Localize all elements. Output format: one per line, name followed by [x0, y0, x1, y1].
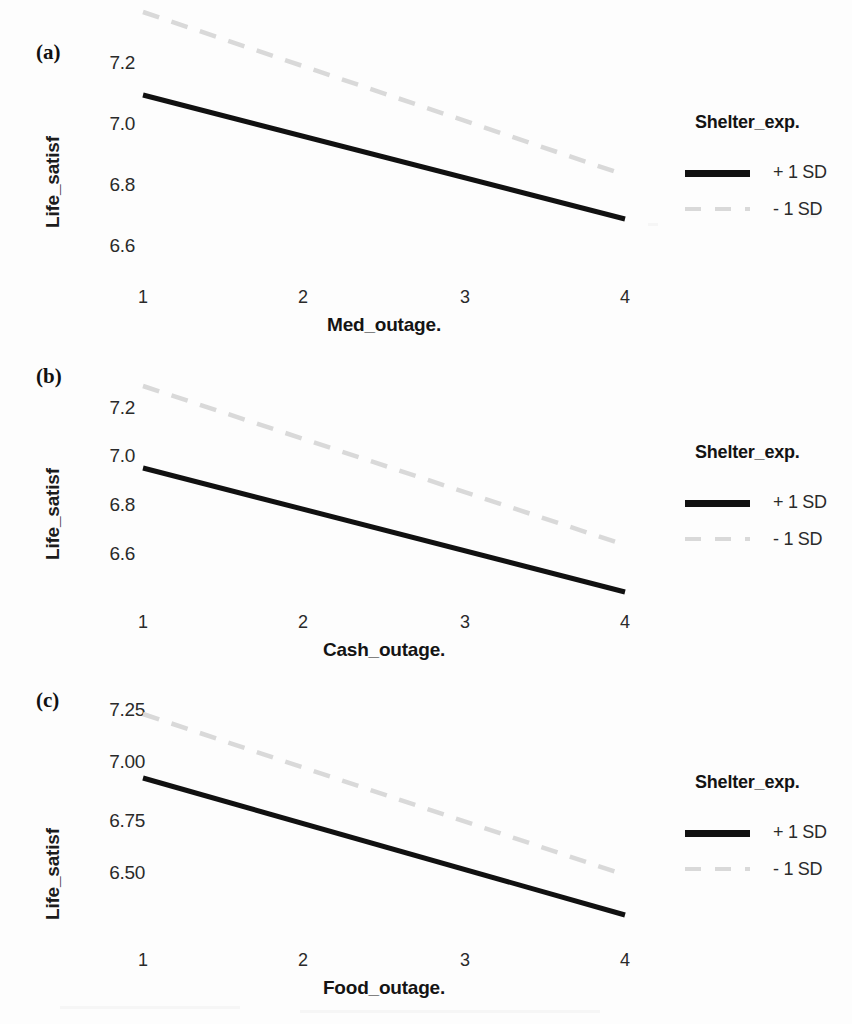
- panel-a: (a) Life_satisf 7.2 7.0 6.8 6.6 1 2 3 4 …: [0, 0, 852, 340]
- panel-c-line-plus1sd: [143, 778, 625, 915]
- x-tick-label: 4: [610, 287, 640, 308]
- y-tick-label: 6.8: [109, 494, 135, 516]
- y-tick-label: 6.75: [109, 810, 145, 832]
- figure-canvas: (a) Life_satisf 7.2 7.0 6.8 6.6 1 2 3 4 …: [0, 0, 852, 1024]
- legend-label: + 1 SD: [773, 822, 827, 843]
- panel-b-series-lines: [143, 340, 625, 630]
- y-tick-label: 7.0: [109, 445, 135, 467]
- x-tick-label: 3: [450, 287, 480, 308]
- panel-b: (b) Life_satisf 7.2 7.0 6.8 6.6 1 2 3 4 …: [0, 340, 852, 670]
- y-tick-label: 6.8: [109, 174, 135, 196]
- scan-artifact: [60, 1006, 240, 1009]
- panel-a-y-axis-label: Life_satisf: [42, 136, 64, 228]
- x-tick-label: 2: [288, 612, 318, 633]
- legend-swatch-dashed: [685, 867, 750, 871]
- panel-a-line-minus1sd: [143, 12, 625, 175]
- panel-b-line-plus1sd: [143, 468, 625, 592]
- y-tick-label: 7.2: [109, 397, 135, 419]
- legend-label: + 1 SD: [773, 492, 827, 513]
- panel-b-legend: Shelter_exp. + 1 SD - 1 SD: [640, 430, 852, 570]
- legend-swatch-solid: [685, 170, 750, 177]
- legend-row-minus1sd: - 1 SD: [685, 199, 845, 221]
- panel-c: (c) Life_satisf 7.25 7.00 6.75 6.50 1 2 …: [0, 670, 852, 1024]
- legend-label: - 1 SD: [773, 859, 822, 880]
- legend-row-minus1sd: - 1 SD: [685, 859, 845, 881]
- x-tick-label: 2: [288, 950, 318, 971]
- legend-title: Shelter_exp.: [695, 442, 800, 463]
- legend-swatch-dashed: [685, 537, 750, 541]
- panel-b-y-axis-label: Life_satisf: [42, 468, 64, 560]
- y-tick-label: 7.00: [109, 751, 145, 773]
- legend-swatch-solid: [685, 500, 750, 507]
- y-tick-label: 7.25: [109, 699, 145, 721]
- panel-a-legend: Shelter_exp. + 1 SD - 1 SD: [640, 100, 852, 240]
- panel-a-line-plus1sd: [143, 95, 625, 219]
- x-tick-label: 3: [450, 950, 480, 971]
- legend-label: + 1 SD: [773, 162, 827, 183]
- panel-a-series-lines: [143, 0, 625, 300]
- legend-title: Shelter_exp.: [695, 112, 800, 133]
- legend-title: Shelter_exp.: [695, 772, 800, 793]
- panel-c-y-axis-label: Life_satisf: [42, 828, 64, 920]
- x-tick-label: 1: [128, 950, 158, 971]
- y-tick-label: 6.50: [109, 862, 145, 884]
- y-tick-label: 6.6: [109, 543, 135, 565]
- legend-row-plus1sd: + 1 SD: [685, 162, 845, 184]
- panel-c-tag: (c): [36, 688, 59, 713]
- scan-artifact: [648, 223, 658, 226]
- legend-label: - 1 SD: [773, 529, 822, 550]
- panel-b-tag: (b): [36, 364, 62, 389]
- legend-swatch-dashed: [685, 207, 750, 211]
- panel-a-x-axis-label: Med_outage.: [143, 314, 625, 336]
- y-tick-label: 7.0: [109, 113, 135, 135]
- legend-swatch-solid: [685, 830, 750, 837]
- x-tick-label: 1: [128, 612, 158, 633]
- scan-artifact: [300, 1010, 600, 1013]
- y-tick-label: 6.6: [109, 235, 135, 257]
- panel-c-line-minus1sd: [143, 714, 625, 875]
- panel-a-tag: (a): [36, 40, 61, 65]
- x-tick-label: 4: [610, 950, 640, 971]
- panel-c-series-lines: [143, 670, 625, 980]
- legend-row-plus1sd: + 1 SD: [685, 822, 845, 844]
- x-tick-label: 4: [610, 612, 640, 633]
- panel-b-line-minus1sd: [143, 386, 625, 545]
- legend-row-minus1sd: - 1 SD: [685, 529, 845, 551]
- x-tick-label: 1: [128, 287, 158, 308]
- panel-b-x-axis-label: Cash_outage.: [143, 639, 625, 661]
- y-tick-label: 7.2: [109, 52, 135, 74]
- x-tick-label: 3: [450, 612, 480, 633]
- scan-artifact: [806, 215, 818, 218]
- x-tick-label: 2: [288, 287, 318, 308]
- panel-c-x-axis-label: Food_outage.: [143, 977, 625, 999]
- panel-c-legend: Shelter_exp. + 1 SD - 1 SD: [640, 740, 852, 880]
- legend-row-plus1sd: + 1 SD: [685, 492, 845, 514]
